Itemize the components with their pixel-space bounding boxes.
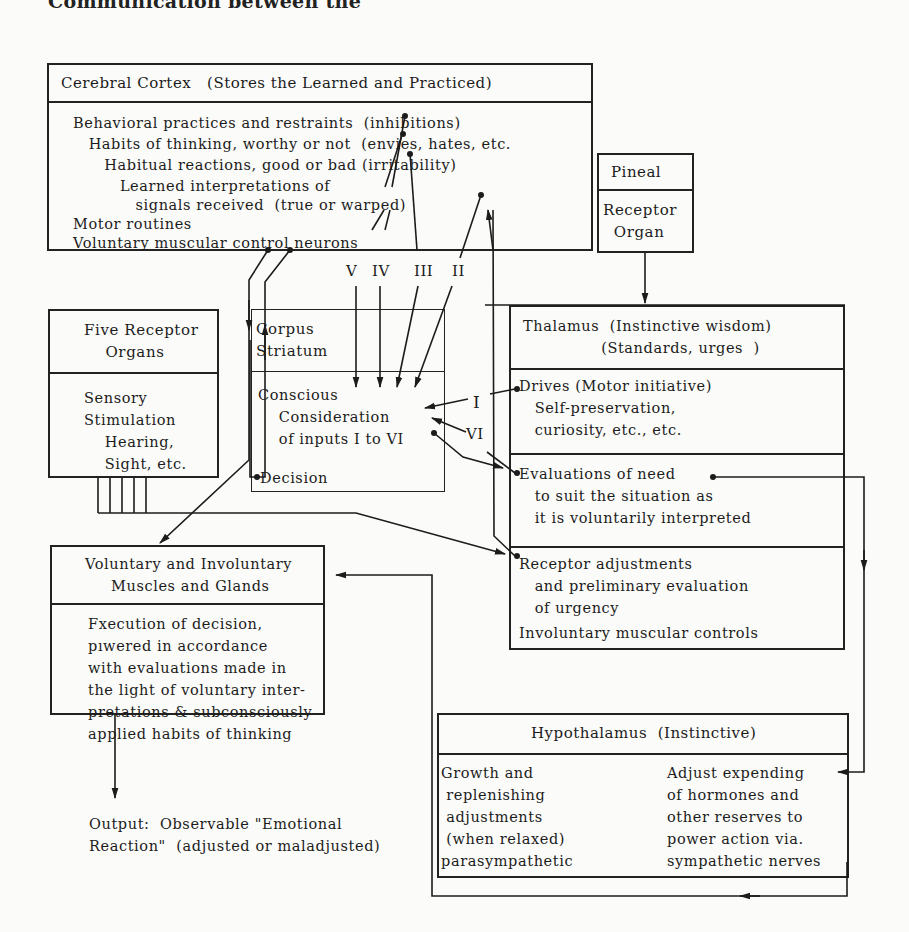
thalamus-involuntary: Involuntary muscular controls <box>519 622 758 644</box>
cortex-line-voluntary: Voluntary muscular control neurons <box>73 232 358 254</box>
input-label-iii: III <box>414 262 433 280</box>
five-receptor-title: Five Receptor Organs <box>84 319 198 363</box>
pineal-header: Pineal <box>599 155 692 191</box>
hypothalamus-header: Hypothalamus (Instinctive) <box>439 715 847 755</box>
muscles-glands-box: Voluntary and Involuntary Muscles and Gl… <box>50 545 325 715</box>
cortex-line-reactions: Habitual reactions, good or bad (irritab… <box>73 154 456 176</box>
corpus-striatum-decision: Decision <box>260 467 328 489</box>
five-receptor-header: Five Receptor Organs <box>50 311 217 374</box>
muscles-glands-title: Voluntary and Involuntary Muscles and Gl… <box>85 553 292 597</box>
input-label-ii: II <box>452 262 465 280</box>
cerebral-cortex-title: Cerebral Cortex (Stores the Learned and … <box>61 74 492 92</box>
pineal-title: Pineal <box>611 163 661 181</box>
thalamus-drives-section: Drives (Motor initiative) Self-preservat… <box>511 370 843 455</box>
input-label-vi: VI <box>466 425 484 443</box>
five-receptor-organs-box: Five Receptor Organs Sensory Stimulation… <box>48 309 219 478</box>
muscles-glands-header: Voluntary and Involuntary Muscles and Gl… <box>52 547 323 605</box>
muscles-glands-body: Fxecution of decision, pıwered in accord… <box>88 613 312 745</box>
cerebral-cortex-header: Cerebral Cortex (Stores the Learned and … <box>49 65 591 103</box>
page-heading: Communication between the <box>48 0 361 12</box>
corpus-striatum-header: Corpus Striatum <box>252 310 444 372</box>
hypothalamus-box: Hypothalamus (Instinctive) Growth and re… <box>437 713 849 878</box>
thalamus-evaluations: Evaluations of need to suit the situatio… <box>519 463 751 529</box>
thalamus-evaluations-section: Evaluations of need to suit the situatio… <box>511 455 843 548</box>
input-label-iv: IV <box>372 262 390 280</box>
five-receptor-body: Sensory Stimulation Hearing, Sight, etc. <box>84 387 187 475</box>
thalamus-receptor-section: Receptor adjustments and preliminary eva… <box>511 548 843 648</box>
pineal-box: Pineal Receptor Organ <box>597 153 694 253</box>
thalamus-receptor: Receptor adjustments and preliminary eva… <box>519 553 749 619</box>
input-label-v: V <box>346 262 357 280</box>
cortex-line-behavioral: Behavioral practices and restraints (inh… <box>73 112 461 134</box>
cortex-line-habits: Habits of thinking, worthy or not (envie… <box>73 133 511 155</box>
hypothalamus-parasympathetic: Growth and replenishing adjustments (whe… <box>441 762 573 872</box>
corpus-striatum-box: Corpus Striatum Conscious Consideration … <box>251 309 445 492</box>
input-label-i: I <box>473 392 480 412</box>
thalamus-title: Thalamus (Instinctive wisdom) (Standards… <box>523 315 772 359</box>
thalamus-drives: Drives (Motor initiative) Self-preservat… <box>519 375 712 441</box>
corpus-striatum-title: Corpus Striatum <box>256 318 328 362</box>
thalamus-header: Thalamus (Instinctive wisdom) (Standards… <box>511 307 843 370</box>
pineal-body: Receptor Organ <box>603 199 677 243</box>
output-label: Output: Observable "Emotional Reaction" … <box>89 813 380 857</box>
hypothalamus-title: Hypothalamus (Instinctive) <box>531 724 756 742</box>
thalamus-box: Thalamus (Instinctive wisdom) (Standards… <box>509 305 845 650</box>
hypothalamus-sympathetic: Adjust expending of hormones and other r… <box>667 762 821 872</box>
corpus-striatum-body: Conscious Consideration of inputs I to V… <box>258 384 404 450</box>
